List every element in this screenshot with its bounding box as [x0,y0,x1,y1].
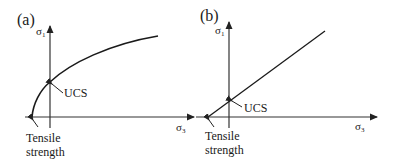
panel-b-x-axis-label: σ3 [355,120,365,134]
panel-b-tensile-label-1: Tensile [205,129,239,143]
panel-b-label: (b) [200,7,219,25]
panel-b-tensile-label-2: strength [205,143,244,157]
panel-b-ucs-arrow [232,101,242,107]
panel-a-ucs-label: UCS [64,86,87,100]
panel-b-ucs-label: UCS [244,101,267,115]
panel-a-label: (a) [17,11,35,29]
panel-a-x-axis-label: σ3 [176,121,186,135]
panel-a-tensile-label-2: strength [26,145,65,159]
panel-a-tensile-label-1: Tensile [26,131,60,145]
panel-b-tensile-arrow [209,120,214,127]
panel-a-tensile-arrow [33,120,38,127]
panel-a-failure-curve [32,36,158,117]
failure-criteria-diagram: (a) σ1 σ3 UCS Tensile strength (b) σ1 σ3… [0,0,397,164]
panel-a-ucs-arrow [52,84,63,93]
panel-b-y-axis-label: σ1 [215,24,225,38]
panel-a-y-axis-label: σ1 [36,25,46,39]
panel-b: (b) σ1 σ3 UCS Tensile strength [196,7,377,157]
panel-a: (a) σ1 σ3 UCS Tensile strength [17,11,194,159]
